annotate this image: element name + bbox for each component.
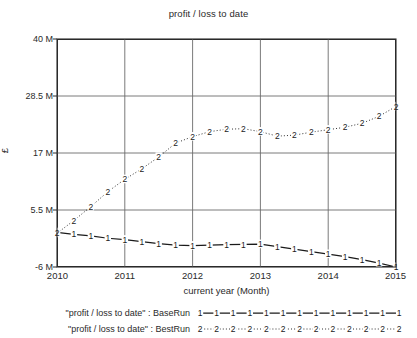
- data-point-marker-2: 2: [258, 127, 263, 137]
- data-point-marker-1: 1: [360, 255, 365, 265]
- data-point-marker-2: 2: [275, 131, 280, 141]
- data-point-marker-1: 1: [139, 237, 144, 247]
- data-point-marker-2: 2: [89, 202, 94, 212]
- legend-marker-1: 1: [198, 308, 203, 318]
- y-axis-tick-label: 28.5 M: [1, 91, 53, 101]
- data-point-marker-1: 1: [309, 247, 314, 257]
- legend-marker-1: 1: [314, 308, 319, 318]
- data-point-marker-2: 2: [241, 124, 246, 134]
- data-point-marker-2: 2: [207, 127, 212, 137]
- y-axis-tick-label: -6 M: [1, 262, 53, 272]
- y-axis-title: £: [0, 148, 10, 153]
- data-point-marker-1: 1: [224, 240, 229, 250]
- legend-marker-2: 2: [364, 324, 369, 334]
- legend-marker-1: 1: [297, 308, 302, 318]
- data-point-marker-2: 2: [122, 174, 127, 184]
- data-point-marker-2: 2: [292, 130, 297, 140]
- legend-marker-1: 1: [347, 308, 352, 318]
- x-axis-tick-label: 2012: [182, 270, 203, 281]
- data-point-marker-2: 2: [156, 152, 161, 162]
- legend-marker-2: 2: [247, 324, 252, 334]
- data-point-marker-1: 1: [275, 242, 280, 252]
- data-point-marker-2: 2: [224, 124, 229, 134]
- data-point-marker-2: 2: [326, 125, 331, 135]
- data-point-marker-1: 1: [241, 240, 246, 250]
- data-point-marker-1: 1: [343, 252, 348, 262]
- x-axis-tick-label: 2010: [47, 270, 68, 281]
- legend-marker-1: 1: [214, 308, 219, 318]
- legend-marker-2: 2: [397, 324, 402, 334]
- x-axis-tick-label: 2011: [115, 270, 135, 281]
- x-axis-tick-label: 2013: [250, 270, 271, 281]
- chart-root: profit / loss to date 111111111111111111…: [0, 0, 417, 338]
- legend-marker-1: 1: [247, 308, 252, 318]
- legend-marker-2: 2: [281, 324, 286, 334]
- legend-marker-2: 2: [231, 324, 236, 334]
- data-point-marker-2: 2: [377, 111, 382, 121]
- legend-marker-2: 2: [380, 324, 385, 334]
- data-point-marker-1: 1: [258, 239, 263, 249]
- data-point-marker-1: 1: [326, 249, 331, 259]
- legend-marker-2: 2: [330, 324, 335, 334]
- y-axis-tick-label: 40 M: [1, 34, 53, 44]
- data-point-marker-1: 1: [156, 239, 161, 249]
- legend-marker-2: 2: [347, 324, 352, 334]
- data-point-marker-1: 1: [173, 240, 178, 250]
- x-axis-tick-label: 2014: [318, 270, 339, 281]
- data-point-marker-2: 2: [72, 216, 77, 226]
- data-point-marker-2: 2: [173, 138, 178, 148]
- data-point-marker-1: 1: [292, 244, 297, 254]
- x-axis-title: current year (Month): [57, 285, 396, 296]
- legend-marker-1: 1: [330, 308, 335, 318]
- legend-marker-2: 2: [314, 324, 319, 334]
- legend-marker-1: 1: [364, 308, 369, 318]
- data-point-marker-2: 2: [190, 132, 195, 142]
- legend-line-sample: 1111111111111: [196, 306, 402, 320]
- legend-marker-2: 2: [264, 324, 269, 334]
- legend-marker-2: 2: [198, 324, 203, 334]
- data-point-marker-1: 1: [207, 240, 212, 250]
- legend-marker-1: 1: [281, 308, 286, 318]
- y-axis-tick-labels: 40 M28.5 M17 M5.5 M-6 M: [0, 0, 53, 338]
- data-point-marker-2: 2: [343, 122, 348, 132]
- legend-label: "profit / loss to date" : BestRun: [0, 324, 196, 334]
- data-point-marker-2: 2: [360, 118, 365, 128]
- legend-label: "profit / loss to date" : BaseRun: [0, 308, 196, 318]
- data-point-marker-2: 2: [139, 164, 144, 174]
- legend-marker-1: 1: [264, 308, 269, 318]
- data-point-marker-1: 1: [89, 231, 94, 241]
- x-axis-tick-label: 2015: [385, 270, 406, 281]
- legend-item-1[interactable]: "profit / loss to date" : BaseRun1111111…: [0, 305, 417, 321]
- legend-marker-1: 1: [231, 308, 236, 318]
- data-point-marker-2: 2: [309, 127, 314, 137]
- legend-item-2[interactable]: "profit / loss to date" : BestRun2222222…: [0, 321, 417, 337]
- data-point-marker-1: 1: [72, 229, 77, 239]
- data-point-marker-2: 2: [105, 187, 110, 197]
- data-point-marker-1: 1: [190, 241, 195, 251]
- chart-legend: "profit / loss to date" : BaseRun1111111…: [0, 305, 417, 337]
- data-point-marker-1: 1: [122, 235, 127, 245]
- legend-marker-1: 1: [397, 308, 402, 318]
- y-axis-tick-label: 5.5 M: [1, 205, 53, 215]
- legend-marker-1: 1: [380, 308, 385, 318]
- data-point-marker-1: 1: [105, 233, 110, 243]
- legend-marker-2: 2: [297, 324, 302, 334]
- legend-line-sample: 2222222222222: [196, 322, 402, 336]
- legend-marker-2: 2: [214, 324, 219, 334]
